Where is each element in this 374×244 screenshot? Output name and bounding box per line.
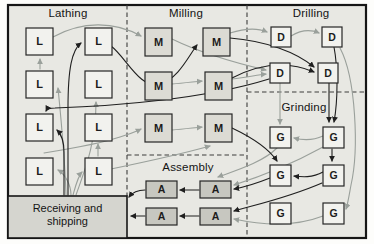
svg-text:G: G bbox=[276, 169, 284, 181]
svg-text:G: G bbox=[276, 207, 284, 219]
machine-L7: L bbox=[26, 158, 53, 185]
machine-D4: D bbox=[318, 63, 338, 83]
receiving-shipping-label: Receiving and shipping bbox=[10, 202, 125, 228]
svg-text:A: A bbox=[212, 210, 220, 222]
svg-text:M: M bbox=[154, 122, 163, 134]
svg-text:M: M bbox=[212, 36, 221, 48]
svg-text:D: D bbox=[277, 31, 285, 43]
machine-G6: G bbox=[323, 203, 344, 224]
svg-text:D: D bbox=[324, 67, 332, 79]
machine-A4: A bbox=[200, 208, 231, 225]
receiving-shipping-line1: Receiving and bbox=[10, 202, 125, 215]
machine-L4: L bbox=[85, 71, 112, 98]
machine-L5: L bbox=[26, 114, 53, 141]
machine-M4: M bbox=[205, 72, 232, 100]
machine-L6: L bbox=[85, 114, 112, 141]
machine-L8: L bbox=[85, 158, 112, 185]
svg-text:M: M bbox=[214, 122, 223, 134]
machine-A3: A bbox=[146, 208, 177, 225]
machine-M3: M bbox=[145, 72, 172, 100]
svg-text:L: L bbox=[36, 35, 43, 47]
svg-text:M: M bbox=[214, 80, 223, 92]
machine-D2: D bbox=[322, 27, 342, 47]
svg-text:A: A bbox=[158, 210, 166, 222]
svg-text:L: L bbox=[95, 165, 102, 177]
machine-G2: G bbox=[323, 127, 344, 148]
machine-D3: D bbox=[270, 63, 290, 83]
machine-G1: G bbox=[270, 127, 291, 148]
section-label-grinding: Grinding bbox=[281, 101, 326, 113]
receiving-shipping-line2: shipping bbox=[10, 215, 125, 228]
process-layout-figure: LLLLLLLLMMMMMMDDDDGGGGGGAAAA Lathing Mil… bbox=[0, 0, 374, 244]
section-label-drilling: Drilling bbox=[293, 7, 330, 19]
section-label-assembly: Assembly bbox=[162, 161, 213, 173]
svg-text:A: A bbox=[158, 183, 166, 195]
svg-text:G: G bbox=[329, 131, 337, 143]
svg-text:L: L bbox=[95, 121, 102, 133]
machine-A1: A bbox=[146, 181, 177, 198]
svg-text:L: L bbox=[36, 165, 43, 177]
machine-G3: G bbox=[270, 165, 291, 186]
machine-L2: L bbox=[85, 28, 112, 55]
svg-text:G: G bbox=[329, 169, 337, 181]
svg-text:D: D bbox=[328, 31, 336, 43]
machine-L3: L bbox=[26, 71, 53, 98]
machine-M2: M bbox=[203, 28, 230, 56]
machine-A2: A bbox=[200, 181, 231, 198]
svg-text:A: A bbox=[212, 183, 220, 195]
machine-M5: M bbox=[145, 114, 172, 142]
svg-text:L: L bbox=[36, 121, 43, 133]
section-label-milling: Milling bbox=[169, 7, 203, 19]
section-label-lathing: Lathing bbox=[48, 7, 87, 19]
svg-text:M: M bbox=[154, 36, 163, 48]
machine-G5: G bbox=[270, 203, 291, 224]
machine-M1: M bbox=[145, 28, 172, 56]
svg-text:G: G bbox=[329, 207, 337, 219]
svg-text:M: M bbox=[154, 80, 163, 92]
svg-text:L: L bbox=[95, 35, 102, 47]
machine-L1: L bbox=[26, 28, 53, 55]
svg-text:L: L bbox=[36, 78, 43, 90]
machine-G4: G bbox=[323, 165, 344, 186]
svg-text:G: G bbox=[276, 131, 284, 143]
machine-M6: M bbox=[205, 114, 232, 142]
svg-text:L: L bbox=[95, 78, 102, 90]
svg-text:D: D bbox=[276, 67, 284, 79]
machine-D1: D bbox=[271, 27, 291, 47]
